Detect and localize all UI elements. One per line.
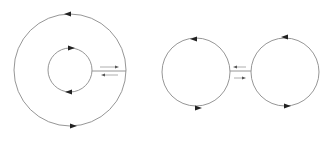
inner-top-arrow-right-icon	[68, 46, 75, 51]
flow-diagram	[0, 0, 331, 142]
bridge-arrow-left-icon	[233, 66, 237, 69]
left-circle-top-arrow-left-icon	[190, 37, 197, 42]
connector-arrow-right-icon	[115, 66, 119, 69]
concentric-circles-group	[14, 12, 126, 129]
inner-bottom-arrow-left-icon	[65, 90, 72, 95]
right-circle	[251, 38, 319, 106]
inner-circle	[48, 48, 92, 92]
right-circle-bottom-arrow-right-icon	[284, 104, 291, 109]
bridge-arrow-right-icon	[242, 77, 246, 80]
outer-bottom-arrow-right-icon	[70, 124, 77, 129]
connector-arrow-left-icon	[101, 74, 105, 77]
adjacent-circles-group	[162, 35, 319, 111]
outer-circle	[14, 14, 126, 126]
left-circle	[162, 38, 230, 106]
outer-top-arrow-left-icon	[64, 12, 71, 17]
right-circle-top-arrow-left-icon	[281, 35, 288, 40]
